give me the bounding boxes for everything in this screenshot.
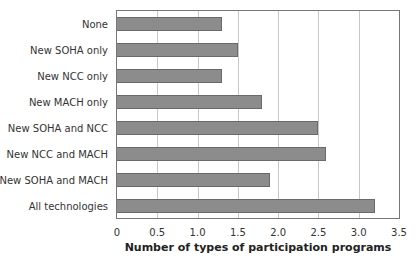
x-tick-label: 1.0 — [190, 227, 206, 238]
gridline — [278, 11, 279, 218]
horizontal-bar-chart: NoneNew SOHA onlyNew NCC onlyNew MACH on… — [0, 0, 416, 266]
category-label: All technologies — [29, 201, 108, 212]
x-tick-label: 1.5 — [230, 227, 246, 238]
category-label: New NCC and MACH — [7, 149, 108, 160]
bar — [117, 17, 222, 31]
bar — [117, 95, 262, 109]
x-tick-label: 2.0 — [270, 227, 286, 238]
category-label: New SOHA only — [30, 45, 108, 56]
x-axis-title: Number of types of participation program… — [116, 241, 400, 254]
bar — [117, 199, 375, 213]
category-label: New SOHA and NCC — [8, 123, 108, 134]
bar — [117, 173, 270, 187]
plot-area — [116, 10, 400, 219]
gridline — [359, 11, 360, 218]
category-label: New SOHA and MACH — [0, 175, 108, 186]
category-label: New MACH only — [29, 97, 108, 108]
x-tick-label: 2.5 — [310, 227, 326, 238]
bar — [117, 69, 222, 83]
category-label: New NCC only — [37, 71, 108, 82]
x-tick-label: 0 — [114, 227, 120, 238]
gridline — [318, 11, 319, 218]
bar — [117, 43, 238, 57]
x-tick-label: 0.5 — [149, 227, 165, 238]
category-label: None — [82, 19, 108, 30]
bar — [117, 121, 318, 135]
x-tick-label: 3.5 — [391, 227, 407, 238]
bar — [117, 147, 326, 161]
x-tick-label: 3.0 — [351, 227, 367, 238]
